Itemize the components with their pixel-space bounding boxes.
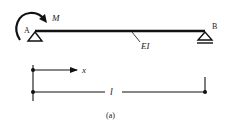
support-b-label: B	[212, 22, 217, 31]
stiffness-label: EI	[140, 41, 150, 51]
figure-caption: (a)	[106, 111, 115, 120]
length-dimension	[31, 90, 207, 94]
stiffness-leader-line	[132, 32, 140, 42]
x-axis-label: x	[81, 65, 86, 75]
pin-support-a-icon	[28, 32, 42, 41]
length-label: l	[110, 86, 113, 97]
support-a-label: A	[24, 26, 30, 35]
x-axis	[31, 68, 77, 72]
beam-diagram: M A B EI x l (a)	[0, 0, 230, 130]
moment-label: M	[51, 13, 60, 23]
roller-support-b-icon	[197, 32, 213, 43]
